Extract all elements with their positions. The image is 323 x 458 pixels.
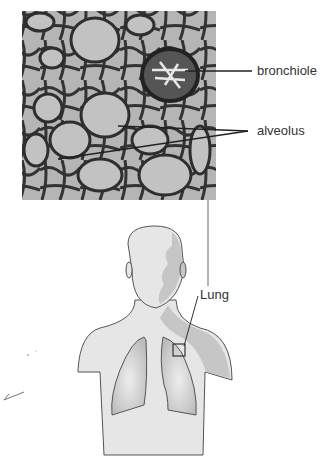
bronchiole-label: bronchiole: [257, 63, 317, 78]
body-diagram: [78, 226, 232, 455]
lung-label: Lung: [200, 287, 229, 302]
stray-arrow-mark: [4, 392, 24, 400]
micrograph: [22, 11, 216, 200]
alveolus-label: alveolus: [257, 123, 305, 138]
